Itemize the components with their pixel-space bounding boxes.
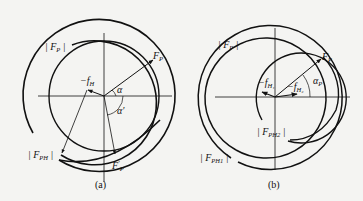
bar: | — [226, 152, 229, 163]
label-fph-mag-a: | FPH | — [28, 150, 53, 162]
label-sub: P — [159, 55, 163, 62]
vector-fp-a — [104, 60, 153, 96]
label-sub: P — [229, 44, 233, 51]
label-alpha-p-b: αP — [313, 76, 322, 88]
label-neg-fh-a: −fH — [80, 76, 94, 88]
caption-b: (b) — [268, 180, 280, 190]
label-fp-a: FP — [153, 51, 163, 63]
arc-fp-mag-a — [61, 41, 156, 165]
bar: | — [218, 39, 221, 50]
bar: | — [63, 41, 66, 52]
label-sub: PH1 — [211, 157, 223, 164]
vector-fph-a — [62, 90, 87, 153]
label-fp-mag-a: | FP | — [45, 42, 66, 54]
label-main: −f — [287, 81, 297, 92]
label-neg-fh2-b: −fH₂ — [287, 82, 304, 94]
label-alpha-prime-a: α′ — [117, 106, 124, 116]
bar: | — [28, 149, 31, 160]
label-sub: P — [318, 80, 322, 87]
label-neg-fh1-b: −fH₁ — [258, 78, 275, 90]
label-fp-mag-b: | FP | — [218, 40, 239, 52]
vector-fp-prime-a — [104, 96, 115, 154]
vector-neg-fh-a — [88, 90, 104, 96]
arc-fp-mag-b — [236, 38, 326, 158]
bar: | — [257, 126, 260, 137]
label-sub: P — [56, 46, 60, 53]
label-fph2-mag-b: | FPH2 | — [257, 127, 286, 139]
label-fp-b: FP — [322, 52, 332, 64]
bar: | — [51, 149, 54, 160]
diagram-canvas — [0, 0, 363, 201]
vector-neg-fh1-b — [262, 92, 275, 97]
label-sub: H₂ — [297, 86, 304, 93]
label-main: −f — [258, 77, 268, 88]
bar: | — [283, 126, 286, 137]
label-fph1-mag-b: | FPH1 | — [200, 153, 229, 165]
label-sub: PH2 — [268, 131, 280, 138]
label-sub: P — [120, 165, 124, 172]
label-fp-prime-a: F′P — [112, 160, 124, 173]
angle-alpha-p-arc — [303, 75, 310, 97]
label-sub: H₁ — [268, 82, 275, 89]
angle-alpha-arc — [112, 90, 116, 96]
bar: | — [45, 41, 48, 52]
bar: | — [200, 152, 203, 163]
label-sub: PH — [39, 154, 48, 161]
label-sub: H — [90, 80, 95, 87]
label-alpha-a: α — [117, 85, 122, 95]
caption-a: (a) — [95, 180, 106, 190]
label-main: −f — [80, 75, 90, 86]
arc-fph2-b — [290, 57, 339, 140]
bar: | — [236, 39, 239, 50]
label-sub: P — [328, 56, 332, 63]
